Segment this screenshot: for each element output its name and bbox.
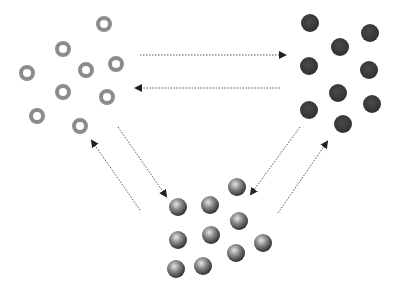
ring-particle [110,58,122,70]
dark-particle [300,57,318,75]
ring-particle [74,120,86,132]
dark-to-spheres-arrow [251,127,300,194]
ring-particle [101,91,113,103]
ring-particle [98,18,110,30]
rings-to-spheres-arrow [118,127,166,196]
spheres-to-rings-arrow [92,141,140,210]
sphere-particle [227,244,245,262]
sphere-particle [254,234,272,252]
ring-particle [57,86,69,98]
dark-particle [331,38,349,56]
ring-particle [31,110,43,122]
sphere-particle [202,226,220,244]
spheres-to-dark-arrow [278,142,327,213]
sphere-particle [194,257,212,275]
ring-particle [21,67,33,79]
dark-particle [334,115,352,133]
dark-particle-group [300,14,381,133]
sphere-particle [230,212,248,230]
ring-particle [57,43,69,55]
sphere-particle [201,196,219,214]
dark-particle [300,101,318,119]
dark-particle [329,84,347,102]
sphere-particle [169,198,187,216]
ring-particle [80,64,92,76]
dark-particle [301,14,319,32]
sphere-particle [228,178,246,196]
phase-diagram [0,0,400,296]
ring-particle-group [21,18,122,132]
sphere-particle [167,260,185,278]
diagram-canvas [0,0,400,296]
dark-particle [363,95,381,113]
sphere-particle [169,231,187,249]
sphere-particle-group [167,178,272,278]
dark-particle [361,24,379,42]
transition-arrows [92,55,327,213]
dark-particle [360,61,378,79]
